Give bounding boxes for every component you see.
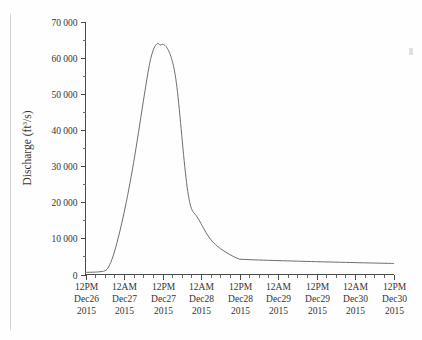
- x-tick-label-year: 2015: [385, 306, 404, 316]
- x-tick-label-year: 2015: [308, 306, 327, 316]
- y-tick-label: 60 000: [51, 54, 77, 64]
- y-tick-label: 50 000: [51, 90, 77, 100]
- y-axis-title-suffix: /s): [21, 110, 34, 122]
- y-tick-label: 40 000: [51, 126, 77, 136]
- x-tick-label-date: Dec28: [228, 294, 253, 304]
- x-tick-label-date: Dec30: [382, 294, 407, 304]
- x-tick-label-year: 2015: [154, 306, 173, 316]
- x-tick-label-date: Dec30: [343, 294, 368, 304]
- y-tick-label: 30 000: [51, 162, 77, 172]
- x-tick-label-group: 12PMDec272015: [151, 282, 176, 316]
- x-tick-label-date: Dec27: [151, 294, 176, 304]
- y-tick-label: 20 000: [51, 198, 77, 208]
- x-tick-label-year: 2015: [115, 306, 134, 316]
- x-tick-label-group: 12PMDec282015: [228, 282, 253, 316]
- y-axis-title: Discharge (ft3/s): [21, 110, 34, 185]
- x-tick-label-time: 12AM: [266, 282, 291, 292]
- x-tick-label-group: 12AMDec282015: [189, 282, 214, 316]
- x-tick-label-year: 2015: [192, 306, 211, 316]
- x-tick-label-group: 12PMDec292015: [305, 282, 330, 316]
- discharge-series-line: [86, 44, 394, 273]
- x-tick-label-date: Dec29: [305, 294, 330, 304]
- x-tick-label-date: Dec29: [266, 294, 291, 304]
- y-axis-tick-labels: 010 00020 00030 00040 00050 00060 00070 …: [51, 18, 77, 281]
- x-axis-tick-labels: 12PMDec26201512AMDec27201512PMDec2720151…: [74, 282, 407, 316]
- x-tick-label-time: 12PM: [306, 282, 330, 292]
- x-tick-label-group: 12PMDec262015: [74, 282, 99, 316]
- x-tick-label-time: 12PM: [229, 282, 253, 292]
- figure-container: 010 00020 00030 00040 00050 00060 00070 …: [0, 0, 422, 340]
- x-tick-label-time: 12AM: [189, 282, 214, 292]
- x-tick-label-group: 12AMDec272015: [112, 282, 137, 316]
- x-tick-label-group: 12AMDec302015: [343, 282, 368, 316]
- x-tick-label-year: 2015: [231, 306, 250, 316]
- axes: [86, 22, 394, 275]
- x-tick-label-group: 12PMDec302015: [382, 282, 407, 316]
- x-tick-label-time: 12AM: [112, 282, 137, 292]
- x-tick-label-group: 12AMDec292015: [266, 282, 291, 316]
- y-axis-title-prefix: Discharge (ft: [21, 125, 34, 186]
- x-tick-label-date: Dec26: [74, 294, 99, 304]
- x-axis-ticks: [87, 275, 395, 280]
- x-tick-label-year: 2015: [269, 306, 288, 316]
- y-tick-label: 70 000: [51, 18, 77, 28]
- x-tick-label-date: Dec28: [189, 294, 214, 304]
- svg-text:Discharge (ft3/s): Discharge (ft3/s): [21, 110, 34, 185]
- y-tick-label: 0: [73, 271, 78, 281]
- x-tick-label-time: 12PM: [383, 282, 407, 292]
- x-tick-label-year: 2015: [77, 306, 96, 316]
- y-tick-label: 10 000: [51, 234, 77, 244]
- hydrograph-chart: 010 00020 00030 00040 00050 00060 00070 …: [0, 0, 422, 340]
- y-axis-ticks: [81, 23, 86, 276]
- x-tick-label-date: Dec27: [112, 294, 137, 304]
- x-tick-label-time: 12AM: [343, 282, 368, 292]
- x-tick-label-time: 12PM: [75, 282, 99, 292]
- x-tick-label-year: 2015: [346, 306, 365, 316]
- x-tick-label-time: 12PM: [152, 282, 176, 292]
